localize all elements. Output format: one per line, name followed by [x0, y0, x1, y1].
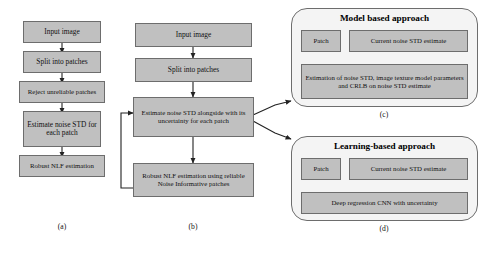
box-a-estimate-noise-std[interactable]: Estimate noise STD for each patch — [23, 111, 101, 147]
box-label: Reject unreliable patches — [28, 88, 96, 96]
caption-c: (c) — [344, 110, 424, 119]
box-c-patch[interactable]: Patch — [301, 30, 341, 52]
box-a-input-image[interactable]: Input image — [23, 21, 101, 43]
box-label: Current noise STD estimate — [371, 37, 447, 45]
box-a-robust-nlf-estimation[interactable]: Robust NLF estimation — [19, 155, 105, 177]
box-a-split-into-patches[interactable]: Split into patches — [23, 51, 101, 73]
box-label: Input image — [176, 31, 212, 39]
box-b-estimate-noise-std-with-uncertainty[interactable]: Estimate noise STD alongside with its un… — [133, 97, 254, 137]
box-a-reject-unreliable-patches[interactable]: Reject unreliable patches — [19, 81, 105, 103]
box-d-patch[interactable]: Patch — [301, 158, 341, 180]
box-label: Input image — [44, 28, 80, 36]
box-label: Split into patches — [36, 58, 87, 66]
box-d-current-noise-std-estimate[interactable]: Current noise STD estimate — [349, 158, 468, 180]
box-b-split-into-patches[interactable]: Split into patches — [135, 58, 252, 82]
box-label: Current noise STD estimate — [371, 165, 447, 173]
box-label: Robust NLF estimation using reliable Noi… — [136, 172, 251, 187]
box-b-robust-nlf-estimation-reliable[interactable]: Robust NLF estimation using reliable Noi… — [133, 163, 254, 197]
branch-to-approach-panels — [253, 101, 291, 139]
box-label: Estimate noise STD alongside with its un… — [136, 109, 251, 124]
panel-d-title: Learning-based approach — [291, 141, 478, 151]
box-label: Robust NLF estimation — [30, 162, 94, 170]
panel-c-title: Model based approach — [291, 13, 478, 23]
box-label: Estimation of noise STD, image texture m… — [304, 74, 465, 89]
box-label: Split into patches — [168, 66, 219, 74]
box-label: Patch — [313, 165, 328, 173]
box-label: Patch — [313, 37, 328, 45]
box-c-current-noise-std-estimate[interactable]: Current noise STD estimate — [349, 30, 468, 52]
box-label: Estimate noise STD for each patch — [26, 121, 98, 138]
box-c-estimation-noise-std-crlb[interactable]: Estimation of noise STD, image texture m… — [301, 64, 468, 99]
box-b-input-image[interactable]: Input image — [135, 23, 252, 47]
box-label: Deep regression CNN with uncertainty — [331, 199, 437, 207]
caption-d: (d) — [344, 224, 424, 233]
caption-b: (b) — [153, 222, 233, 231]
flowchart-figure: Input image Split into patches Reject un… — [0, 0, 484, 255]
caption-a: (a) — [22, 222, 102, 231]
box-d-deep-regression-cnn[interactable]: Deep regression CNN with uncertainty — [301, 192, 468, 214]
